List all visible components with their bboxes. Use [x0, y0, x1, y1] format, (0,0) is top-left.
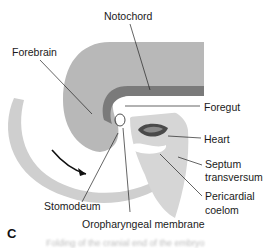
label-forebrain: Forebrain [12, 46, 57, 58]
label-foregut: Foregut [204, 101, 240, 113]
label-pericardial-1: Pericardial [205, 190, 255, 202]
panel-label: C [7, 226, 16, 241]
label-heart: Heart [204, 133, 230, 145]
label-pericardial-2: coelom [205, 204, 239, 216]
label-notochord: Notochord [104, 10, 152, 22]
figure-caption: Folding of the cranial end of the embryo [46, 238, 205, 248]
label-stomodeum: Stomodeum [44, 200, 101, 212]
label-septum-2: transversum [205, 171, 263, 183]
label-oropharyngeal-membrane: Oropharyngeal membrane [82, 218, 205, 230]
label-septum-1: Septum [205, 158, 241, 170]
